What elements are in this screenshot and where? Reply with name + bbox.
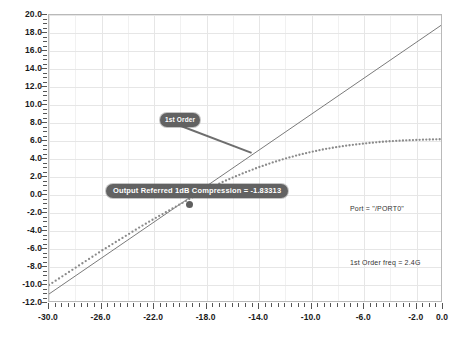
series-data-point [325,148,327,150]
series-data-point [188,198,190,200]
x-axis-tick-minor [344,303,345,307]
annotation-first-order-freq: 1st Order freq = 2.4G [350,259,421,266]
x-axis-tick-label: -6.0 [340,312,386,322]
series-data-point [55,280,57,282]
series-data-point [135,229,137,231]
y-axis-tick-minor [43,149,47,150]
y-axis-tick-minor [43,293,47,294]
series-data-point [75,266,77,268]
series-data-point [88,258,90,260]
x-axis-tick-minor [61,303,62,307]
x-axis-tick [101,303,102,309]
y-axis-tick-label: 14.0 [0,63,42,73]
y-axis-tick [41,14,47,15]
y-axis-tick-label: 2.0 [0,171,42,181]
y-axis-tick-minor [43,239,47,240]
x-axis-tick-minor [94,303,95,307]
x-axis-tick-label: -22.0 [130,312,176,322]
x-axis-tick-label: -30.0 [25,312,71,322]
annotation-1st-order[interactable]: 1st Order [160,113,200,127]
series-data-point [415,139,417,141]
series-data-point [305,152,307,154]
x-axis-tick-minor [403,303,404,307]
series-data-point [51,282,53,284]
x-axis-tick-minor [376,303,377,307]
x-axis-tick [206,303,207,309]
x-axis-tick-minor [245,303,246,307]
series-data-point [375,141,377,143]
series-data-point [272,161,274,163]
y-axis-tick-minor [43,172,47,173]
y-axis-tick [41,104,47,105]
series-data-point [168,209,170,211]
series-data-point [101,249,103,251]
x-axis-tick-minor [357,303,358,307]
x-axis-tick-minor [74,303,75,307]
x-axis-tick-minor [68,303,69,307]
series-data-point [435,138,437,140]
x-axis-tick-minor [252,303,253,307]
series-data-point [231,176,233,178]
series-data-point [238,174,240,176]
series-data-point [171,207,173,209]
series-data-point [335,146,337,148]
y-axis-tick-minor [43,100,47,101]
y-axis-tick-minor [43,257,47,258]
series-data-point [235,175,237,177]
series-data-point [138,226,140,228]
series-data-point [111,243,113,245]
series-data-point [398,140,400,142]
y-axis-tick-minor [43,59,47,60]
series-data-point [268,162,270,164]
series-data-point [258,166,260,168]
x-axis-tick-minor [429,303,430,307]
y-axis-tick-label: 0.0 [0,189,42,199]
y-axis-tick-minor [43,41,47,42]
series-data-point [428,138,430,140]
y-axis-tick-minor [43,190,47,191]
series-data-point [432,138,434,140]
y-axis-tick-label: -2.0 [0,207,42,217]
chart-screenshot: 20.018.016.014.012.010.08.06.04.02.00.0-… [0,0,456,345]
y-axis-tick [41,284,47,285]
y-axis-tick [41,176,47,177]
y-axis-tick-minor [43,91,47,92]
x-axis-tick-minor [55,303,56,307]
series-data-point [439,138,441,140]
y-axis-tick-label: 20.0 [0,9,42,19]
series-data-point [91,256,93,258]
series-data-point [221,181,223,183]
series-data-point [355,143,357,145]
y-axis-tick [41,248,47,249]
x-axis-tick-minor [317,303,318,307]
y-axis-tick-label: -4.0 [0,225,42,235]
y-axis-tick-minor [43,289,47,290]
series-data-point [408,139,410,141]
x-axis-tick-minor [422,303,423,307]
y-axis-tick-minor [43,221,47,222]
annotation-output-referred-1db-compression[interactable]: Output Referred 1dB Compression = -1.833… [106,184,288,198]
series-data-point [85,260,87,262]
x-axis-tick-minor [337,303,338,307]
y-axis-tick-minor [43,208,47,209]
series-data-point [405,139,407,141]
series-data-point [242,172,244,174]
y-axis-tick-minor [43,253,47,254]
series-data-point [131,231,133,233]
y-axis-tick-minor [43,280,47,281]
series-data-point [312,150,314,152]
series-data-point [368,142,370,144]
series-data-point [418,139,420,141]
x-axis-tick-label: -10.0 [288,312,334,322]
x-axis-tick-minor [350,303,351,307]
x-axis-tick-minor [87,303,88,307]
x-axis-tick-minor [409,303,410,307]
x-axis-tick-minor [225,303,226,307]
x-axis-tick-minor [370,303,371,307]
y-axis-tick [41,230,47,231]
series-data-point [115,241,117,243]
x-axis-tick-minor [147,303,148,307]
x-axis-tick-minor [186,303,187,307]
x-axis-tick-minor [133,303,134,307]
series-data-point [385,140,387,142]
